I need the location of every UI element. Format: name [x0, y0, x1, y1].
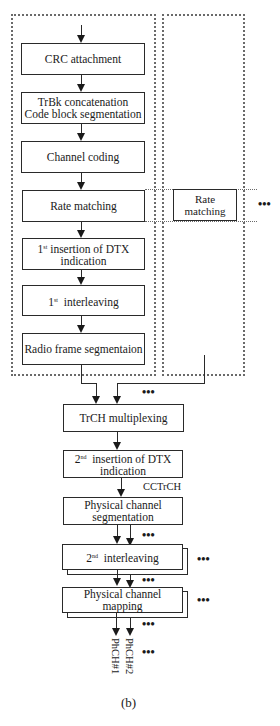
- second-interleaving-box: 2nd interleaving: [62, 544, 183, 570]
- first-interleaving-label: 1st interleaving: [48, 294, 118, 308]
- right-merge-line: [204, 355, 205, 384]
- output-arrow-line-1: [116, 613, 117, 629]
- left-merge-line: [96, 383, 97, 397]
- output-ellipsis: •••: [142, 619, 155, 629]
- trch-multiplexing-box: TrCH multiplexing: [63, 404, 184, 432]
- arrowhead-icon: [112, 628, 120, 636]
- mapping-input-ellipsis: •••: [142, 575, 155, 585]
- phch-2-label: PhCH#2: [124, 638, 135, 674]
- rate-matching-box: Rate matching: [22, 190, 145, 222]
- arrowhead-icon: [77, 325, 85, 333]
- channel-coding-box: Channel coding: [21, 141, 145, 173]
- parallel-chains-ellipsis: •••: [258, 199, 271, 209]
- right-merge-line: [117, 383, 118, 397]
- arrowhead-icon: [113, 536, 121, 544]
- arrowhead-icon: [77, 277, 85, 285]
- arrow-line: [130, 525, 131, 539]
- arrowhead-icon: [77, 230, 85, 238]
- left-merge-line: [81, 383, 97, 384]
- left-merge-line: [81, 365, 82, 384]
- arrowhead-icon: [126, 628, 134, 636]
- input-arrowhead-icon: [77, 35, 85, 43]
- crc-attachment-box: CRC attachment: [21, 43, 145, 75]
- segmentation-ellipsis: •••: [142, 530, 155, 540]
- arrowhead-icon: [113, 442, 121, 450]
- mapping-ellipsis: •••: [197, 595, 210, 605]
- arrowhead-icon: [92, 396, 100, 404]
- first-interleaving-box: 1st interleaving: [22, 285, 145, 316]
- rate-matching-lower-guide: [145, 221, 257, 222]
- arrowhead-icon: [113, 396, 121, 404]
- figure-caption: (b): [121, 695, 136, 711]
- arrowhead-icon: [77, 84, 85, 92]
- physical-channel-segmentation-box: Physical channel segmentation: [63, 497, 183, 525]
- more-outputs-ellipsis: •••: [142, 647, 155, 657]
- arrowhead-icon: [77, 133, 85, 141]
- arrowhead-icon: [117, 489, 125, 497]
- right-merge-line: [117, 383, 205, 384]
- second-interleaving-label: 2nd interleaving: [86, 550, 158, 564]
- first-dtx-insertion-box: 1st insertion of DTXindication: [22, 238, 145, 270]
- arrowhead-icon: [77, 182, 85, 190]
- interleaving-ellipsis: •••: [197, 554, 210, 564]
- trbk-concatenation-box: TrBk concatenation Code block segmentati…: [21, 92, 145, 124]
- arrowhead-icon: [113, 578, 121, 586]
- first-dtx-label: 1st insertion of DTXindication: [38, 241, 130, 267]
- phch-1-label: PhCH#1: [110, 638, 121, 674]
- cctrch-label: CCTrCH: [143, 481, 181, 492]
- merge-ellipsis: •••: [142, 387, 155, 397]
- parallel-rate-matching-box: Rate matching: [173, 189, 237, 221]
- radio-frame-segmentation-box: Radio frame segmentaion: [22, 333, 145, 365]
- physical-channel-mapping-box: Physical channel mapping: [62, 587, 183, 613]
- second-dtx-insertion-box: 2nd insertion of DTXindication: [63, 450, 183, 478]
- second-dtx-label: 2nd insertion of DTXindication: [75, 451, 172, 477]
